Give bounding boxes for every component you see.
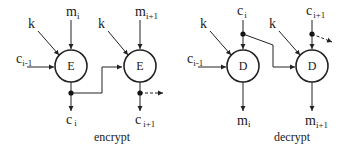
label-m-i1: mi+1 — [135, 4, 158, 21]
encrypt-op-label: E — [67, 59, 74, 73]
decrypt-block-1: D — [198, 20, 295, 111]
encrypt-op-label: E — [136, 59, 143, 73]
label-c-i: ci — [66, 112, 77, 128]
label-key: k — [98, 16, 105, 31]
key-arrow — [38, 31, 59, 55]
label-key: k — [28, 16, 35, 31]
label-m-i: mi — [237, 113, 251, 129]
decrypt-op-label: D — [308, 59, 317, 73]
label-c-i: ci — [237, 3, 247, 20]
continuation-arrow — [312, 34, 332, 42]
key-arrow — [279, 31, 300, 55]
decrypt-section: D D ci ci+1 k k ci-1 mi mi+1 decrypt — [187, 3, 332, 144]
decrypt-caption: decrypt — [274, 130, 311, 144]
key-arrow — [108, 31, 128, 55]
encrypt-block-2: E — [108, 20, 163, 111]
label-key: k — [200, 16, 207, 31]
label-c-i-1: ci-1 — [187, 51, 203, 68]
encrypt-block-1: E — [27, 20, 122, 111]
label-key: k — [269, 16, 276, 31]
encrypt-section: E E mi mi+1 k k ci-1 ci ci+1 encrypt — [16, 4, 163, 144]
label-c-i-1: ci-1 — [16, 51, 32, 68]
decrypt-block-2: D — [279, 20, 332, 111]
cbc-diagram: E E mi mi+1 k k ci-1 ci ci+1 encrypt — [0, 0, 346, 154]
label-c-i1: ci+1 — [135, 112, 155, 129]
label-m-i: mi — [66, 4, 80, 21]
key-arrow — [210, 31, 231, 55]
label-c-i1: ci+1 — [306, 3, 325, 20]
encrypt-caption: encrypt — [94, 130, 131, 144]
decrypt-op-label: D — [239, 59, 248, 73]
label-m-i1: mi+1 — [305, 113, 328, 130]
